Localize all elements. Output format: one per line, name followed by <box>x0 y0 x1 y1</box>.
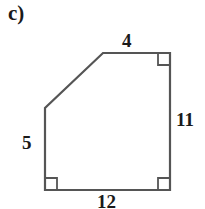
pentagon-shape <box>45 53 170 190</box>
side-label-right: 11 <box>176 110 194 129</box>
part-label: c) <box>8 3 24 24</box>
right-angle-marker-bottom-left-icon <box>45 178 57 190</box>
side-label-left: 5 <box>22 133 32 152</box>
geometry-figure <box>0 0 205 209</box>
right-angle-marker-bottom-right-icon <box>158 178 170 190</box>
side-label-top: 4 <box>122 31 132 50</box>
right-angle-marker-top-right-icon <box>158 53 170 65</box>
figure-container: c) 4 11 5 12 <box>0 0 205 209</box>
side-label-bottom: 12 <box>97 192 116 209</box>
